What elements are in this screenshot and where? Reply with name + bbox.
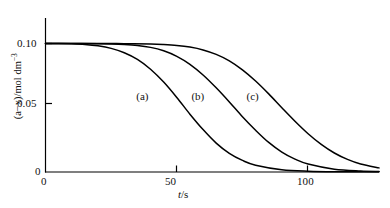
curve-label-b: (b): [191, 91, 204, 102]
kinetics-decay-chart: 0.10 0.05 0 0 50 100 t/s (a−x)/mol dm−3 …: [0, 0, 390, 208]
x-tick-label-0: 0: [41, 176, 47, 187]
y-axis-title: (a−x)/mol dm−3: [9, 26, 24, 146]
curve-label-c: (c): [247, 91, 259, 102]
curve-label-a: (a): [136, 91, 148, 102]
curve-a-path: [46, 43, 380, 171]
y-tick-label-0: 0: [35, 166, 41, 177]
x-tick-label-100: 100: [297, 176, 314, 187]
data-curves: [46, 43, 380, 171]
x-axis-unit: /s: [181, 188, 188, 200]
x-axis-title: t/s: [178, 189, 188, 200]
y-axis-unit: /mol dm: [12, 61, 23, 96]
curve-b-path: [46, 43, 380, 171]
curve-c-path: [46, 43, 380, 167]
plot-canvas: [0, 0, 390, 208]
x-tick-label-50: 50: [165, 176, 176, 187]
y-axis-quantity: (a−x): [12, 96, 23, 119]
y-axis-exponent: −3: [10, 53, 19, 61]
axis-ticks: [46, 44, 308, 173]
